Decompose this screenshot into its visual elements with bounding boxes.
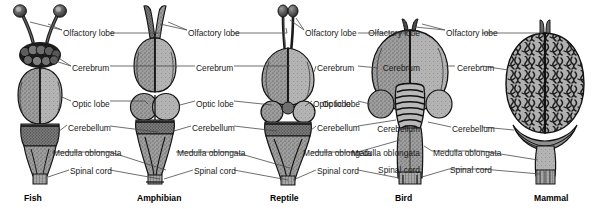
fish-optic-lobe (18, 68, 62, 124)
label-fish-cerebellum: Cerebellum (68, 123, 111, 133)
caption-bird: Bird (395, 193, 412, 203)
amphibian-cerebrum (134, 38, 176, 92)
amphibian-optic-lobe (131, 94, 180, 121)
fish-cerebrum (19, 42, 61, 68)
label-bird-cerebellum: Cerebellum (452, 124, 495, 134)
mammal-cerebrum (506, 33, 584, 133)
label-mammal-olfactory-lobe: Olfactory lobe (368, 28, 420, 38)
label-mammal-spinal-cord: Spinal cord (378, 165, 420, 175)
label-reptile-cerebrum: Cerebrum (317, 63, 354, 73)
label-mammal-cerebrum: Cerebrum (383, 63, 420, 73)
label-fish-medulla-oblongata: Medulla oblongata (53, 148, 122, 158)
amphibian-spinal-cord (146, 175, 164, 184)
label-bird-medulla-oblongata: Medulla oblongata (433, 148, 502, 158)
label-amphibian-cerebellum: Cerebellum (192, 123, 235, 133)
label-bird-cerebrum: Cerebrum (457, 63, 494, 73)
caption-amphibian: Amphibian (137, 193, 181, 203)
label-fish-cerebrum: Cerebrum (72, 63, 109, 73)
label-amphibian-olfactory-lobe: Olfactory lobe (188, 28, 240, 38)
reptile-cerebellum (265, 122, 312, 136)
caption-reptile: Reptile (270, 193, 299, 203)
fish-cerebellum (21, 124, 60, 146)
reptile-spinal-cord (281, 176, 295, 185)
caption-mammal: Mammal (534, 193, 568, 203)
mammal-spinal-cord (536, 170, 555, 184)
label-amphibian-optic-lobe: Optic lobe (196, 99, 234, 109)
label-reptile-olfactory-lobe: Olfactory lobe (305, 28, 357, 38)
label-fish-spinal-cord: Spinal cord (70, 166, 112, 176)
label-bird-olfactory-lobe: Olfactory lobe (446, 28, 498, 38)
fish-olfactory-bulb-right (54, 5, 67, 17)
label-bird-optic-lobe: Optic lobe (322, 99, 360, 109)
label-reptile-spinal-cord: Spinal cord (317, 166, 359, 176)
label-bird-spinal-cord: Spinal cord (450, 165, 492, 175)
label-fish-optic-lobe: Optic lobe (72, 99, 110, 109)
label-reptile-cerebellum: Cerebellum (317, 123, 360, 133)
label-amphibian-medulla-oblongata: Medulla oblongata (177, 148, 246, 158)
vertebrate-brain-comparison-figure: Olfactory lobe Cerebrum Optic lobe Cereb… (0, 0, 599, 209)
label-mammal-medulla-oblongata: Medulla oblongata (352, 148, 421, 158)
label-fish-olfactory-lobe: Olfactory lobe (63, 28, 115, 38)
caption-fish: Fish (24, 193, 42, 203)
fish-spinal-cord (33, 174, 47, 184)
label-amphibian-spinal-cord: Spinal cord (194, 166, 236, 176)
label-amphibian-cerebrum: Cerebrum (196, 63, 233, 73)
label-mammal-cerebellum: Cerebellum (377, 124, 420, 134)
reptile-cerebrum (262, 48, 314, 105)
fish-olfactory-bulb-left (14, 5, 27, 17)
